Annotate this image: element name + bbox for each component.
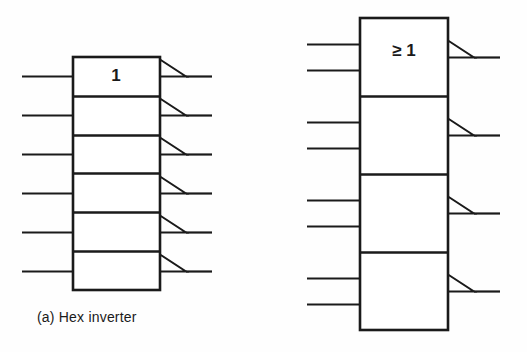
logic-symbol-quad-or: ≥ 1 [307, 18, 500, 330]
negation-triangle-hex-inverter-6 [160, 255, 186, 272]
symbols-layer: 1≥ 1 [22, 18, 500, 330]
caption-hex-inverter: (a) Hex inverter [37, 309, 137, 325]
negation-triangle-hex-inverter-3 [160, 138, 186, 155]
negation-triangle-hex-inverter-2 [160, 99, 186, 116]
qualifier-symbol-hex-inverter: 1 [111, 66, 120, 85]
negation-triangle-hex-inverter-1 [160, 60, 186, 77]
negation-triangle-hex-inverter-5 [160, 216, 186, 233]
logic-symbol-figure: 1≥ 1 (a) Hex inverter [0, 0, 527, 352]
logic-symbol-hex-inverter: 1 [22, 57, 212, 290]
negation-triangle-quad-or-4 [448, 275, 474, 292]
figure-canvas: 1≥ 1 (a) Hex inverter [0, 0, 527, 352]
captions-layer: (a) Hex inverter [37, 309, 137, 325]
negation-triangle-quad-or-3 [448, 197, 474, 214]
negation-triangle-quad-or-2 [448, 119, 474, 136]
qualifier-symbol-quad-or: ≥ 1 [392, 41, 416, 60]
negation-triangle-quad-or-1 [448, 41, 474, 58]
negation-triangle-hex-inverter-4 [160, 177, 186, 194]
